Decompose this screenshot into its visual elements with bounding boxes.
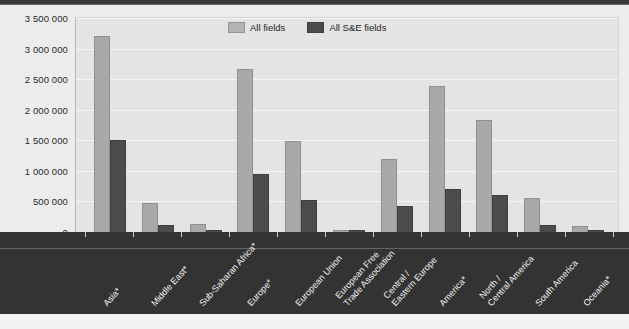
bar-all-fields: [285, 141, 301, 232]
bar-group: [421, 18, 469, 232]
bar-all-fields: [429, 86, 445, 232]
y-axis-tick-label: 500 000: [33, 196, 68, 207]
x-axis-tick: [469, 232, 470, 237]
bar-group: [516, 18, 564, 232]
bar-all-fields: [94, 36, 110, 232]
legend-label-all-fields: All fields: [250, 22, 285, 33]
bar-all-se-fields: [397, 206, 413, 232]
legend-item-all-se-fields: All S&E fields: [307, 22, 386, 33]
chart-legend: All fields All S&E fields: [228, 22, 386, 33]
x-axis-band: Asia*Middle East*Sub-Saharan Africa*Euro…: [0, 232, 629, 314]
legend-label-all-se-fields: All S&E fields: [329, 22, 386, 33]
bar-all-se-fields: [253, 174, 269, 232]
x-axis-tick-label: South America: [533, 257, 580, 308]
y-axis-tick-label: 1 500 000: [25, 135, 68, 146]
footer-strip: [0, 314, 629, 329]
x-axis-tick-label: North / Central America: [477, 246, 535, 308]
chart-figure: 3 500 0003 000 0002 500 0002 000 0001 50…: [0, 0, 629, 329]
plot-area: [75, 17, 619, 232]
bar-all-se-fields: [158, 225, 174, 232]
x-axis-tick: [517, 232, 518, 237]
x-axis-tick-label: Middle East*: [149, 263, 191, 308]
x-axis-tick: [373, 232, 374, 237]
bar-all-fields: [476, 120, 492, 232]
bar-all-fields: [524, 198, 540, 232]
bar-all-se-fields: [301, 200, 317, 232]
all-fields-swatch: [228, 22, 245, 33]
bar-group: [182, 18, 230, 232]
bar-all-fields: [190, 224, 206, 232]
x-axis-tick: [613, 232, 614, 237]
x-axis-tick-label: Europe*: [245, 277, 275, 308]
x-axis-tick: [277, 232, 278, 237]
bar-group: [325, 18, 373, 232]
bar-groups: [76, 18, 618, 232]
x-axis-tick: [133, 232, 134, 237]
x-axis-tick: [421, 232, 422, 237]
bar-all-se-fields: [110, 140, 126, 232]
y-axis: 3 500 0003 000 0002 500 0002 000 0001 50…: [0, 17, 72, 232]
bar-all-se-fields: [445, 189, 461, 232]
x-axis-tick: [325, 232, 326, 237]
x-axis-tick-label: Oceania*: [581, 273, 614, 308]
bar-all-se-fields: [492, 195, 508, 232]
x-axis-tick-label: European Union: [293, 253, 344, 308]
bar-all-se-fields: [540, 225, 556, 232]
y-axis-tick-label: 1 000 000: [25, 165, 68, 176]
bar-group: [277, 18, 325, 232]
bar-group: [134, 18, 182, 232]
y-axis-tick-label: 2 500 000: [25, 74, 68, 85]
x-axis-tick: [229, 232, 230, 237]
bar-all-fields: [381, 159, 397, 232]
x-axis-labels: Asia*Middle East*Sub-Saharan Africa*Euro…: [75, 232, 619, 314]
x-axis-tick-label: Asia*: [101, 285, 123, 308]
bar-group: [469, 18, 517, 232]
x-axis-tick-label: America*: [437, 274, 469, 308]
bar-group: [373, 18, 421, 232]
legend-item-all-fields: All fields: [228, 22, 285, 33]
bar-group: [86, 18, 134, 232]
all-se-fields-swatch: [307, 22, 324, 33]
bar-all-fields: [237, 69, 253, 232]
y-axis-tick-label: 2 000 000: [25, 104, 68, 115]
y-axis-tick-label: 3 000 000: [25, 43, 68, 54]
bar-group: [564, 18, 612, 232]
bar-all-fields: [142, 203, 158, 232]
y-axis-tick-label: 3 500 000: [25, 13, 68, 24]
x-axis-tick: [565, 232, 566, 237]
x-axis-tick: [85, 232, 86, 237]
bar-group: [229, 18, 277, 232]
x-axis-tick: [181, 232, 182, 237]
